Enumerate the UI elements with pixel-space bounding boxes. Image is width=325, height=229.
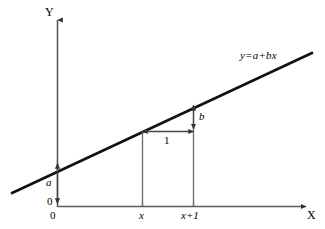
x-tick-label-second: x+1: [181, 210, 199, 221]
origin-x-label: 0: [50, 210, 56, 221]
intercept-label: a: [46, 177, 52, 188]
origin-y-label: 0: [47, 196, 53, 207]
equation-label: y=a+bx: [240, 50, 277, 61]
x-axis-label: X: [307, 209, 316, 221]
regression-line-figure: Y X 0 0 x x+1 a 1 b y=a+bx: [0, 0, 325, 229]
rise-label: b: [199, 111, 205, 122]
regression-line: [11, 53, 313, 194]
x-tick-label-first: x: [139, 210, 144, 221]
y-axis-label: Y: [45, 6, 54, 18]
run-label: 1: [164, 135, 170, 146]
